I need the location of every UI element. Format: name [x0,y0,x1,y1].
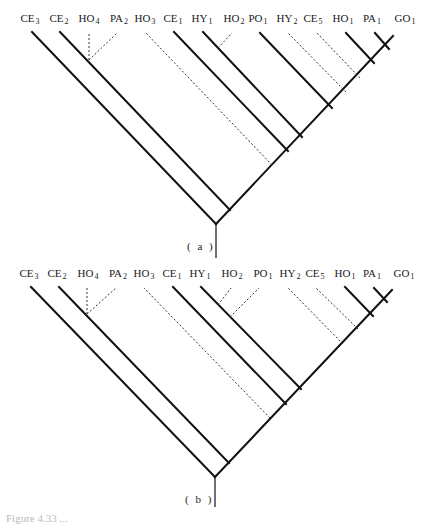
branch-ce3 [32,32,216,224]
branch-pa1 [374,288,387,302]
branch-pa2 [89,33,117,60]
taxon-label: HY1 [192,12,213,26]
cladogram-figure: CE3CE2HO4PA2HO3CE1HY1HO2PO1HY2CE5HO1PA1G… [0,0,433,524]
branch-hy2 [288,33,346,92]
branch-po1 [260,33,332,108]
branch-ce2 [60,32,230,210]
taxon-label: HO4 [79,12,100,26]
panel-a: CE3CE2HO4PA2HO3CE1HY1HO2PO1HY2CE5HO1PA1G… [20,12,415,258]
taxon-label: HO3 [134,267,155,281]
taxon-label: CE2 [49,12,68,26]
branch-ho1 [346,33,374,63]
taxon-label: CE1 [162,267,181,281]
branch-po1 [230,288,259,317]
panel-b: CE3CE2HO4PA2HO3CE1HY1HO2PO1HY2CE5HO1PA1G… [19,267,414,507]
taxon-label: HO1 [333,12,354,26]
taxon-label: CE3 [20,12,39,26]
panel-b-caption: ( b ) [185,493,213,506]
taxon-label: PA1 [363,12,381,26]
branch-ce3 [31,287,215,477]
branch-spine-go1 [215,290,392,477]
taxon-label: HO3 [135,12,156,26]
taxon-label: GO1 [394,267,415,281]
taxon-label: HO1 [335,267,356,281]
branch-ho2 [218,288,231,305]
taxon-label: PA2 [110,12,128,26]
branch-hy1 [201,287,301,389]
panel-a-labels: CE3CE2HO4PA2HO3CE1HY1HO2PO1HY2CE5HO1PA1G… [20,12,415,26]
branch-ho2 [218,33,232,48]
taxon-label: PO1 [253,267,272,281]
branch-ho3 [144,288,270,418]
taxon-label: HO4 [78,267,99,281]
branch-ho1 [345,287,373,316]
taxon-label: HY1 [190,267,211,281]
branch-pa2 [87,288,116,314]
figure-caption: Figure 4.33 ... [6,512,68,524]
taxon-label: PA1 [363,267,381,281]
taxon-label: CE1 [163,12,182,26]
branch-spine-go1 [216,36,393,224]
panel-a-caption: ( a ) [187,240,215,253]
taxon-label: CE2 [47,267,66,281]
taxon-label: HY2 [277,12,298,26]
taxon-label: HO2 [222,267,243,281]
branch-ce1 [173,287,286,404]
taxon-label: PA2 [109,267,127,281]
taxon-label: HO2 [224,12,245,26]
taxon-label: GO1 [395,12,416,26]
branch-ce2 [59,287,229,463]
taxon-label: CE5 [305,267,324,281]
branch-ho3 [146,33,272,165]
branch-ce1 [174,32,288,151]
branch-hy2 [288,288,343,344]
taxon-label: CE3 [19,267,38,281]
taxon-label: CE5 [303,12,322,26]
panel-b-labels: CE3CE2HO4PA2HO3CE1HY1HO2PO1HY2CE5HO1PA1G… [19,267,414,281]
taxon-label: HY2 [280,267,301,281]
taxon-label: PO1 [248,12,267,26]
